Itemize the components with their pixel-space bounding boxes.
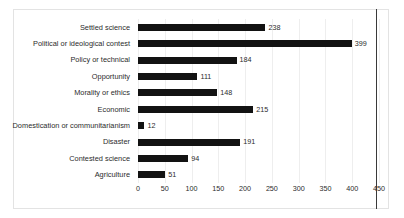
- bar-value-label: 111: [200, 73, 211, 80]
- bar-value-label: 191: [243, 138, 255, 145]
- category-label: Contested science: [14, 150, 135, 166]
- category-label: Disaster: [14, 134, 135, 150]
- x-tick-label: 400: [346, 185, 358, 192]
- bar-value-label: 94: [191, 155, 199, 162]
- bar: [138, 139, 240, 146]
- x-tick-label: 150: [212, 185, 224, 192]
- category-label: Settled science: [14, 19, 135, 35]
- bar-row: 51: [138, 167, 379, 183]
- category-label: Morality or ethics: [14, 85, 135, 101]
- bar-row: 238: [138, 19, 379, 35]
- bar-value-label: 148: [220, 89, 232, 96]
- bar-value-label: 215: [256, 106, 268, 113]
- category-label: Economic: [14, 101, 135, 117]
- bar-value-label: 238: [268, 24, 280, 31]
- bar: [138, 73, 197, 80]
- chart-plot-wrapper: Settled sciencePolitical or ideological …: [14, 10, 390, 210]
- bar-value-label: 399: [355, 40, 367, 47]
- bar-value-label: 51: [168, 171, 176, 178]
- x-tick-label: 200: [239, 185, 251, 192]
- bar-value-label: 12: [147, 122, 155, 129]
- x-tick-label: 100: [186, 185, 198, 192]
- bar-row: 94: [138, 150, 379, 166]
- value-axis: 050100150200250300350400450: [138, 185, 379, 197]
- category-label: Political or ideological contest: [14, 35, 135, 51]
- right-border-rule: [376, 9, 377, 209]
- bar-row: 12: [138, 117, 379, 133]
- bar: [138, 171, 165, 178]
- category-label: Domestication or communitarianism: [14, 117, 135, 133]
- bar-row: 111: [138, 68, 379, 84]
- bar-value-label: 184: [240, 56, 252, 63]
- x-tick-label: 0: [136, 185, 140, 192]
- bar: [138, 57, 237, 64]
- bar-row: 215: [138, 101, 379, 117]
- bar-row: 399: [138, 35, 379, 51]
- gridline: [379, 19, 380, 183]
- x-tick-label: 450: [373, 185, 385, 192]
- bar-row: 184: [138, 52, 379, 68]
- bar-chart-figure: Settled sciencePolitical or ideological …: [13, 9, 389, 209]
- bar: [138, 24, 265, 31]
- bar: [138, 122, 144, 129]
- category-axis: Settled sciencePolitical or ideological …: [14, 19, 135, 183]
- category-label: Agriculture: [14, 167, 135, 183]
- x-tick-label: 50: [161, 185, 169, 192]
- category-label: Policy or technical: [14, 52, 135, 68]
- x-tick-label: 300: [293, 185, 305, 192]
- bar-row: 148: [138, 85, 379, 101]
- plot-area: 238399184111148215121919451: [138, 19, 379, 183]
- x-tick-label: 250: [266, 185, 278, 192]
- bar: [138, 89, 217, 96]
- bar: [138, 155, 188, 162]
- category-label: Opportunity: [14, 68, 135, 84]
- bar: [138, 106, 253, 113]
- bar-series: 238399184111148215121919451: [138, 19, 379, 183]
- x-tick-label: 350: [319, 185, 331, 192]
- bar: [138, 40, 352, 47]
- bar-row: 191: [138, 134, 379, 150]
